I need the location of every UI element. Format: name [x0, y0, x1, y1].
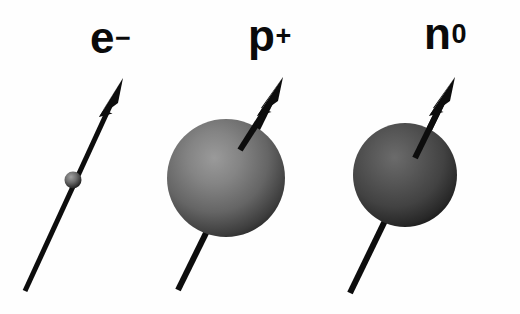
proton-group [167, 77, 285, 290]
electron-sphere [65, 172, 82, 189]
electron-charge: − [115, 23, 131, 53]
neutron-spin-arrow-head-fill [429, 77, 455, 116]
neutron-symbol: n [424, 9, 450, 58]
neutron-charge: 0 [451, 19, 466, 49]
proton-label: p+ [248, 14, 291, 58]
proton-sphere [167, 119, 285, 237]
electron-group [25, 78, 123, 291]
electron-label: e− [90, 16, 131, 60]
proton-symbol: p [248, 11, 274, 60]
neutron-group [350, 77, 457, 293]
neutron-sphere [353, 123, 457, 227]
neutron-label: n0 [424, 12, 466, 56]
electron-spin-arrow-head-fill [99, 78, 123, 117]
electron-spin-arrow-shaft [25, 106, 110, 291]
proton-spin-arrow-head-fill [257, 77, 283, 116]
proton-charge: + [275, 21, 291, 51]
particle-spin-diagram: e− p+ n0 [0, 0, 520, 314]
electron-symbol: e [90, 13, 114, 62]
